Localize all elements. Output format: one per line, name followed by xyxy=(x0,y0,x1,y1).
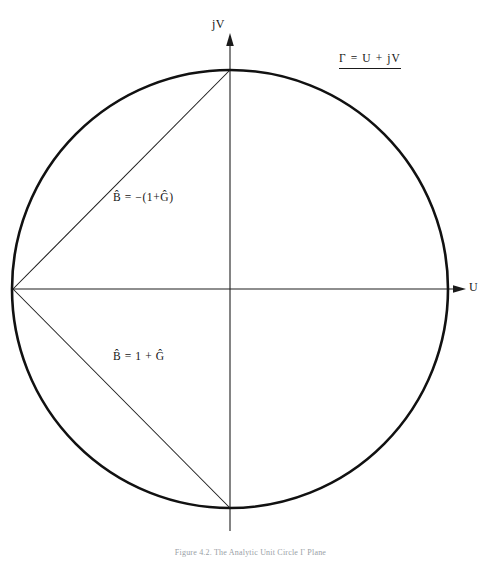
chord-label-lower: B̂ = 1 + Ĝ xyxy=(113,351,165,363)
chord-upper-line xyxy=(13,70,230,289)
figure-container: jV U Γ = U + jV B̂ = −(1+Ĝ) B̂ = 1 + Ĝ… xyxy=(0,0,501,561)
axis-label-u: U xyxy=(469,281,478,293)
axis-label-jv: jV xyxy=(212,18,225,30)
figure-caption: Figure 4.2. The Analytic Unit Circle Γ P… xyxy=(0,548,501,557)
unit-circle-diagram xyxy=(0,0,501,561)
chord-label-upper: B̂ = −(1+Ĝ) xyxy=(113,192,174,204)
chord-lower-line xyxy=(13,289,230,508)
gamma-equation-annotation: Γ = U + jV xyxy=(339,53,401,69)
jv-axis-arrowhead xyxy=(226,33,234,46)
u-axis-arrowhead xyxy=(453,285,466,293)
